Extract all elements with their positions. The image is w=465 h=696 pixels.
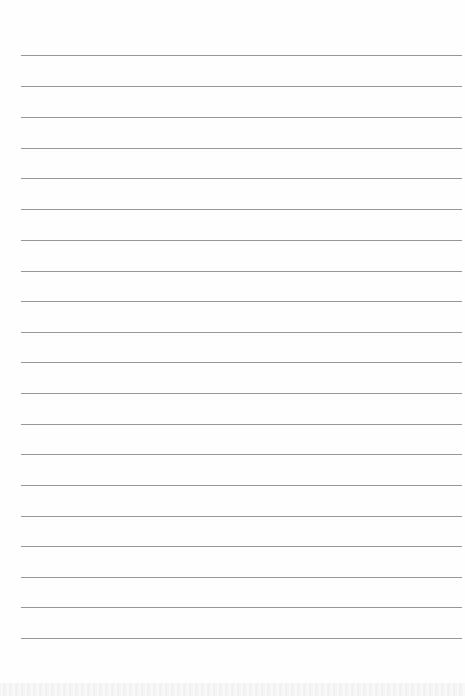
scan-edge-band: [0, 683, 465, 696]
ruled-line: [21, 485, 462, 486]
ruled-line: [21, 516, 462, 517]
ruled-line: [21, 240, 462, 241]
ruled-line: [21, 271, 462, 272]
ruled-line: [21, 209, 462, 210]
ruled-line: [21, 117, 462, 118]
ruled-line: [21, 393, 462, 394]
lined-paper-page: [0, 0, 465, 696]
ruled-line: [21, 148, 462, 149]
ruled-line: [21, 362, 462, 363]
ruled-line: [21, 424, 462, 425]
ruled-line: [21, 86, 462, 87]
ruled-line: [21, 178, 462, 179]
ruled-line: [21, 607, 462, 608]
ruled-line: [21, 301, 462, 302]
ruled-line: [21, 546, 462, 547]
ruled-line: [21, 577, 462, 578]
ruled-line: [21, 638, 462, 639]
ruled-line: [21, 55, 462, 56]
ruled-line: [21, 454, 462, 455]
ruled-line: [21, 332, 462, 333]
